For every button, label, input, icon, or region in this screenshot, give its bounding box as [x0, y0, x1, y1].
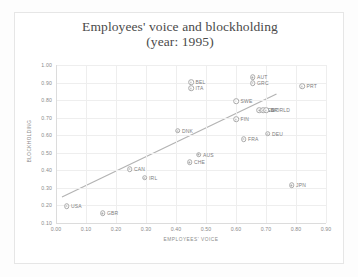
gridline-vertical	[236, 65, 237, 223]
data-point-label-fin: FIN	[241, 116, 250, 122]
plot-area: 0.100.200.300.400.500.600.700.800.901.00…	[56, 65, 326, 223]
y-axis-line	[56, 65, 57, 223]
data-point-label-swe: SWE	[241, 98, 253, 104]
data-point-label-world: WORLD	[271, 107, 291, 113]
y-axis-tick-label: 0.30	[41, 185, 52, 191]
y-axis-tick-label: 0.50	[41, 150, 52, 156]
data-point-label-dnk: DNK	[182, 128, 193, 134]
data-point-deu[interactable]	[265, 131, 271, 137]
data-point-label-gbr: GBR	[107, 210, 118, 216]
x-axis-line	[56, 223, 326, 224]
data-point-aus[interactable]	[196, 152, 202, 158]
x-axis-tick-label: 0.80	[291, 226, 302, 232]
gridline-horizontal	[56, 188, 326, 189]
data-point-fin[interactable]	[233, 117, 239, 123]
data-point-ita[interactable]	[188, 85, 194, 91]
data-point-label-aus: AUS	[203, 152, 214, 158]
data-point-label-che: CHE	[194, 159, 205, 165]
data-point-gbr[interactable]	[100, 211, 106, 217]
chart-title: Employees' voice and blockholding (year:…	[15, 19, 345, 49]
data-point-label-grc: GRC	[257, 80, 269, 86]
data-point-irl[interactable]	[142, 175, 148, 181]
y-axis-tick-label: 0.40	[41, 167, 52, 173]
data-point-label-usa: USA	[71, 203, 82, 209]
x-axis-tick-label: 0.10	[81, 226, 92, 232]
chart-title-line-1: Employees' voice and blockholding	[82, 19, 278, 34]
chart-title-line-2: (year: 1995)	[15, 34, 345, 49]
x-axis-tick-label: 0.90	[321, 226, 332, 232]
gridline-horizontal	[56, 65, 326, 66]
gridline-vertical	[176, 65, 177, 223]
y-axis-tick-label: 0.60	[41, 132, 52, 138]
data-point-label-jpn: JPN	[296, 182, 306, 188]
data-point-che[interactable]	[187, 160, 193, 166]
gridline-horizontal	[56, 153, 326, 154]
gridline-horizontal	[56, 100, 326, 101]
data-point-world[interactable]	[263, 107, 269, 113]
y-axis-tick-label: 0.20	[41, 202, 52, 208]
x-axis-tick-label: 0.00	[51, 226, 62, 232]
y-axis-tick-label: 1.00	[41, 62, 52, 68]
data-point-label-prt: PRT	[307, 83, 318, 89]
chart-card: Employees' voice and blockholding (year:…	[14, 12, 344, 264]
data-point-bel[interactable]	[188, 79, 194, 85]
data-point-prt[interactable]	[299, 84, 305, 90]
gridline-vertical	[326, 65, 327, 223]
data-point-usa[interactable]	[64, 203, 70, 209]
data-point-can[interactable]	[127, 166, 133, 172]
x-axis-tick-label: 0.60	[231, 226, 242, 232]
gridline-horizontal	[56, 135, 326, 136]
data-point-label-ita: ITA	[196, 85, 204, 91]
chart-screenshot: Employees' voice and blockholding (year:…	[0, 0, 358, 277]
y-axis-tick-label: 0.70	[41, 115, 52, 121]
x-axis-tick-label: 0.20	[111, 226, 122, 232]
gridline-vertical	[116, 65, 117, 223]
gridline-vertical	[266, 65, 267, 223]
gridline-vertical	[146, 65, 147, 223]
y-axis-label: BLOCKHOLDING	[27, 120, 32, 163]
data-point-label-deu: DEU	[272, 131, 283, 137]
x-axis-tick-label: 0.30	[141, 226, 152, 232]
gridline-vertical	[206, 65, 207, 223]
data-point-label-fra: FRA	[248, 136, 259, 142]
y-axis-tick-label: 0.80	[41, 97, 52, 103]
gridline-horizontal	[56, 205, 326, 206]
data-point-jpn[interactable]	[289, 182, 295, 188]
x-axis-tick-label: 0.70	[261, 226, 272, 232]
x-axis-label: EMPLOYEES' VOICE	[56, 237, 326, 242]
data-point-grc[interactable]	[250, 80, 256, 86]
y-axis-tick-label: 0.90	[41, 80, 52, 86]
x-axis-tick-label: 0.40	[171, 226, 182, 232]
data-point-dnk[interactable]	[175, 128, 181, 134]
x-axis-tick-label: 0.50	[201, 226, 212, 232]
data-point-fra[interactable]	[241, 136, 247, 142]
gridline-horizontal	[56, 170, 326, 171]
data-point-label-can: CAN	[134, 166, 145, 172]
data-point-label-irl: IRL	[149, 175, 157, 181]
gridline-vertical	[86, 65, 87, 223]
gridline-vertical	[296, 65, 297, 223]
gridline-horizontal	[56, 118, 326, 119]
data-point-swe[interactable]	[233, 98, 239, 104]
